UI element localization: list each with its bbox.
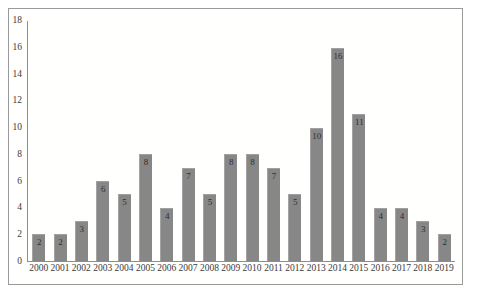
bar-2003[interactable]: 6 xyxy=(96,181,109,261)
x-axis-tick-2012: 2012 xyxy=(284,264,305,274)
bar-2008[interactable]: 5 xyxy=(203,194,216,261)
x-axis-tick-2011: 2011 xyxy=(263,264,284,274)
bar-value-label: 2 xyxy=(33,238,45,247)
bar-2017[interactable]: 4 xyxy=(395,208,408,261)
bar-value-label: 11 xyxy=(353,118,365,127)
bar-value-label: 8 xyxy=(225,158,237,167)
bar-slot: 7 xyxy=(263,21,284,261)
bar-2004[interactable]: 5 xyxy=(118,194,131,261)
x-axis-line xyxy=(27,261,455,262)
bar-slot: 5 xyxy=(199,21,220,261)
bar-2011[interactable]: 7 xyxy=(267,168,280,261)
bar-2015[interactable]: 11 xyxy=(352,114,365,261)
bar-value-label: 3 xyxy=(76,225,88,234)
bar-slot: 3 xyxy=(71,21,92,261)
y-axis-tick-16: 16 xyxy=(13,43,23,53)
bar-2000[interactable]: 2 xyxy=(32,234,45,261)
bar-2013[interactable]: 10 xyxy=(310,128,323,261)
bar-2016[interactable]: 4 xyxy=(374,208,387,261)
bar-2002[interactable]: 3 xyxy=(75,221,88,261)
bar-value-label: 7 xyxy=(183,172,195,181)
bar-slot: 7 xyxy=(178,21,199,261)
bar-2019[interactable]: 2 xyxy=(438,234,451,261)
bar-2007[interactable]: 7 xyxy=(182,168,195,261)
x-axis-tick-2005: 2005 xyxy=(135,264,156,274)
bar-value-label: 5 xyxy=(119,198,131,207)
bar-slot: 2 xyxy=(28,21,49,261)
bar-value-label: 2 xyxy=(439,238,451,247)
bar-value-label: 8 xyxy=(247,158,259,167)
bar-value-label: 10 xyxy=(311,132,323,141)
bar-2014[interactable]: 16 xyxy=(331,48,344,261)
x-axis-tick-2004: 2004 xyxy=(114,264,135,274)
bar-value-label: 8 xyxy=(140,158,152,167)
bar-slot: 4 xyxy=(391,21,412,261)
y-axis-tick-18: 18 xyxy=(13,16,23,26)
chart-figure: 024681012141618 22365847588751016114432 … xyxy=(8,8,463,285)
x-axis-tick-2014: 2014 xyxy=(327,264,348,274)
y-axis-tick-4: 4 xyxy=(17,204,22,214)
bar-slot: 8 xyxy=(135,21,156,261)
y-axis-tick-12: 12 xyxy=(13,97,23,107)
bar-2018[interactable]: 3 xyxy=(416,221,429,261)
y-axis-tick-10: 10 xyxy=(13,123,23,133)
x-axis-tick-2013: 2013 xyxy=(306,264,327,274)
bar-slot: 4 xyxy=(156,21,177,261)
x-axis-tick-2001: 2001 xyxy=(50,264,71,274)
bar-value-label: 16 xyxy=(332,52,344,61)
bar-value-label: 3 xyxy=(417,225,429,234)
x-axis-tick-2002: 2002 xyxy=(71,264,92,274)
bar-value-label: 4 xyxy=(161,212,173,221)
bar-series: 22365847588751016114432 xyxy=(28,21,455,261)
bar-value-label: 4 xyxy=(375,212,387,221)
x-axis-tick-2003: 2003 xyxy=(92,264,113,274)
bar-value-label: 6 xyxy=(97,185,109,194)
x-axis-tick-2008: 2008 xyxy=(199,264,220,274)
y-axis-tick-14: 14 xyxy=(13,70,23,80)
bar-2012[interactable]: 5 xyxy=(288,194,301,261)
x-axis-tick-2017: 2017 xyxy=(391,264,412,274)
y-axis-tick-2: 2 xyxy=(17,230,22,240)
bar-slot: 4 xyxy=(370,21,391,261)
bar-value-label: 7 xyxy=(268,172,280,181)
bar-slot: 2 xyxy=(50,21,71,261)
bar-2009[interactable]: 8 xyxy=(224,154,237,261)
bar-slot: 11 xyxy=(348,21,369,261)
x-axis-tick-2010: 2010 xyxy=(242,264,263,274)
x-axis-tick-2019: 2019 xyxy=(434,264,455,274)
y-axis-tick-8: 8 xyxy=(17,150,22,160)
bar-2005[interactable]: 8 xyxy=(139,154,152,261)
x-axis-tick-2006: 2006 xyxy=(156,264,177,274)
x-axis-tick-2016: 2016 xyxy=(370,264,391,274)
bar-slot: 16 xyxy=(327,21,348,261)
bar-value-label: 5 xyxy=(289,198,301,207)
x-axis-tick-2007: 2007 xyxy=(178,264,199,274)
bar-2001[interactable]: 2 xyxy=(54,234,67,261)
x-axis-tick-2000: 2000 xyxy=(28,264,49,274)
bar-slot: 5 xyxy=(114,21,135,261)
x-axis-tick-labels: 2000200120022003200420052006200720082009… xyxy=(28,264,455,274)
plot-area: 024681012141618 22365847588751016114432 xyxy=(27,21,455,262)
bar-value-label: 4 xyxy=(396,212,408,221)
bar-2006[interactable]: 4 xyxy=(160,208,173,261)
bar-slot: 3 xyxy=(412,21,433,261)
bar-value-label: 2 xyxy=(55,238,67,247)
bar-slot: 6 xyxy=(92,21,113,261)
x-axis-tick-2009: 2009 xyxy=(220,264,241,274)
bar-2010[interactable]: 8 xyxy=(246,154,259,261)
y-axis-tick-0: 0 xyxy=(17,257,22,267)
bar-slot: 10 xyxy=(306,21,327,261)
bar-slot: 8 xyxy=(242,21,263,261)
bar-slot: 2 xyxy=(434,21,455,261)
bar-value-label: 5 xyxy=(204,198,216,207)
x-axis-tick-2018: 2018 xyxy=(412,264,433,274)
bar-slot: 5 xyxy=(284,21,305,261)
y-axis-tick-6: 6 xyxy=(17,177,22,187)
bar-slot: 8 xyxy=(220,21,241,261)
x-axis-tick-2015: 2015 xyxy=(348,264,369,274)
